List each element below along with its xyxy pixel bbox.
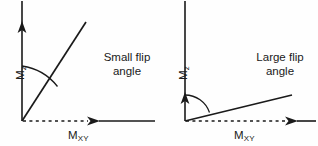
right-magnetization-vector xyxy=(185,95,292,121)
left-mxy-axis-label-m: M xyxy=(68,129,78,141)
small-flip-angle-caption: Small flip angle xyxy=(100,50,154,78)
right-mxy-axis-arrowhead xyxy=(285,117,298,126)
right-mz-axis-label-subscript: z xyxy=(182,66,191,70)
right-flip-angle-arc xyxy=(185,95,210,113)
small-flip-angle-caption-line1: Small flip xyxy=(100,50,154,64)
left-mxy-axis-label: MXY xyxy=(68,129,89,143)
left-mz-axis-label: Mz xyxy=(14,66,28,80)
large-flip-angle-caption: Large flip angle xyxy=(252,50,308,78)
large-flip-angle-caption-line2: angle xyxy=(252,64,308,78)
right-mz-axis-label-m: M xyxy=(177,70,189,80)
flip-angle-figure: Mz MXY Small flip angle Mz MXY Large fli… xyxy=(0,0,318,146)
right-mxy-axis-label-m: M xyxy=(234,129,244,141)
left-mz-axis-label-subscript: z xyxy=(19,66,28,70)
right-mz-axis-label: Mz xyxy=(177,66,191,80)
left-mxy-axis-arrowhead xyxy=(87,117,100,126)
left-magnetization-vector xyxy=(22,22,86,121)
small-flip-angle-caption-line2: angle xyxy=(100,64,154,78)
right-mxy-axis-label-subscript: XY xyxy=(244,134,255,143)
large-flip-angle-caption-line1: Large flip xyxy=(252,50,308,64)
right-mxy-axis-label: MXY xyxy=(234,129,255,143)
left-mz-axis-label-m: M xyxy=(14,70,26,80)
left-mxy-axis-label-subscript: XY xyxy=(78,134,89,143)
